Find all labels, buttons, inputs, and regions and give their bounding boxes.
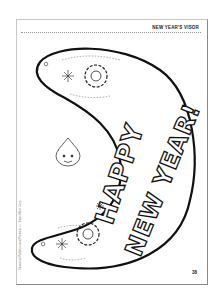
party-hat-face-icon — [56, 138, 80, 166]
visor-cutout: HAPPY NEW YEAR! — [0, 0, 223, 298]
